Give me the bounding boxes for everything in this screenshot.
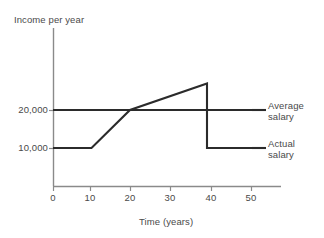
x-tick-label-0: 0 <box>43 192 63 203</box>
legend-label-average-salary: Average salary <box>268 100 304 122</box>
legend-label-average-line1: Average <box>268 100 304 111</box>
legend-label-actual-line1: Actual <box>268 138 295 149</box>
x-axis-title: Time (years) <box>139 216 193 227</box>
y-axis-title: Income per year <box>14 14 84 25</box>
legend-label-actual-salary: Actual salary <box>268 138 295 160</box>
x-tick-label-20: 20 <box>120 192 140 203</box>
legend-label-actual-line2: salary <box>268 149 295 160</box>
x-tick-label-50: 50 <box>241 192 261 203</box>
x-tick-label-30: 30 <box>160 192 180 203</box>
y-tick-label-20000: 20,000 <box>4 104 48 115</box>
y-tick-label-10000: 10,000 <box>4 142 48 153</box>
series-actual-salary <box>53 83 265 148</box>
x-tick-label-10: 10 <box>80 192 100 203</box>
income-chart: Income per year Time (years) 20,000 10,0… <box>0 0 324 238</box>
x-tick-label-40: 40 <box>201 192 221 203</box>
legend-label-average-line2: salary <box>268 111 304 122</box>
